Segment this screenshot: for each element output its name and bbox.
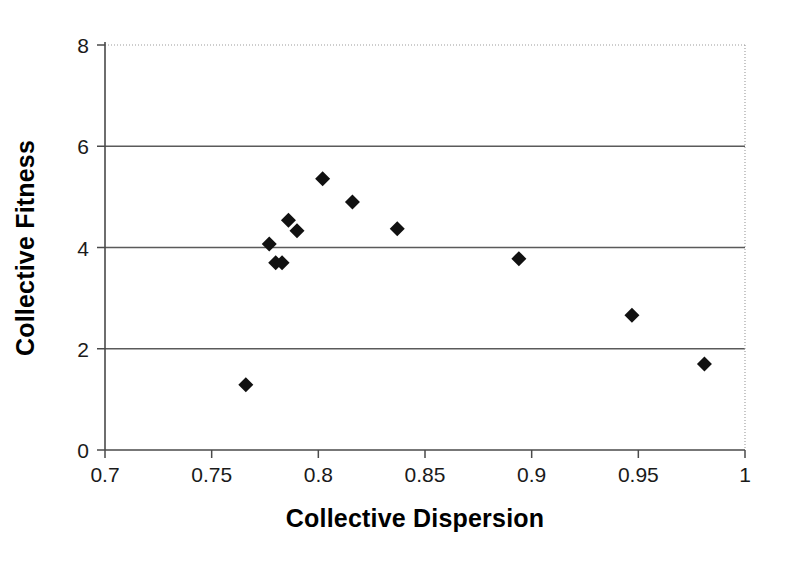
x-tick-label-0.85: 0.85 (405, 463, 446, 486)
y-tick-label-6: 6 (77, 135, 89, 158)
x-tick-label-0.7: 0.7 (90, 463, 119, 486)
x-tick-label-0.75: 0.75 (191, 463, 232, 486)
x-tick-label-0.8: 0.8 (304, 463, 333, 486)
x-tick-label-0.9: 0.9 (517, 463, 546, 486)
x-tick-label-1: 1 (739, 463, 751, 486)
x-axis-title: Collective Dispersion (286, 504, 544, 532)
y-tick-label-2: 2 (77, 338, 89, 361)
y-tick-label-4: 4 (77, 237, 89, 260)
plot-area: 0.70.750.80.850.90.951 02468 Collective … (0, 0, 788, 561)
y-tick-label-0: 0 (77, 439, 89, 462)
x-tick-label-0.95: 0.95 (618, 463, 659, 486)
y-tick-label-8: 8 (77, 34, 89, 57)
scatter-chart: 0.70.750.80.850.90.951 02468 Collective … (0, 0, 788, 561)
y-axis-title: Collective Fitness (11, 140, 39, 356)
